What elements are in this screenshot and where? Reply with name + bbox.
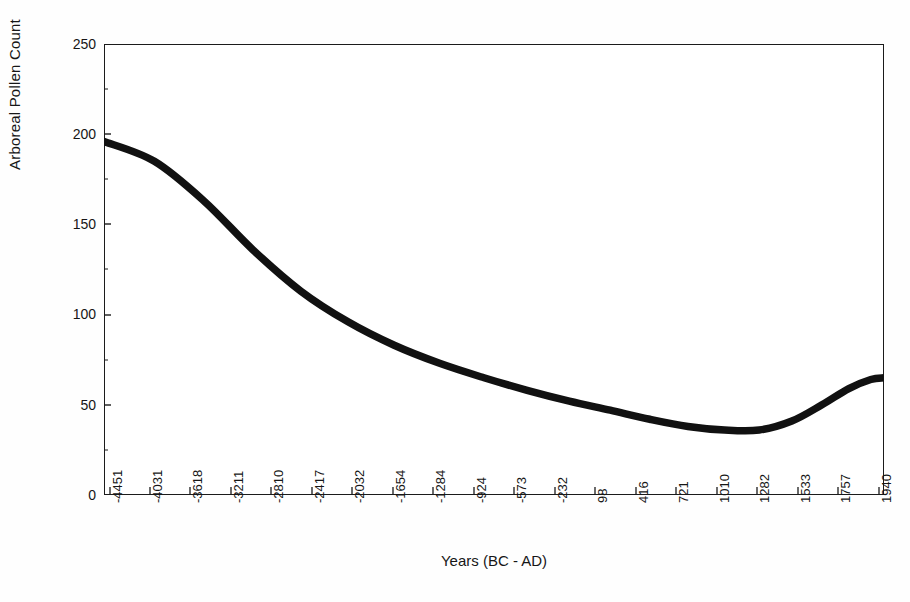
x-tick-label: 1757 [838,474,853,503]
y-tick-label: 200 [54,126,96,142]
x-tick-label: -1654 [393,470,408,503]
x-tick-label: -3618 [190,470,205,503]
plot-canvas [104,44,884,495]
y-tick-label: 150 [54,216,96,232]
x-tick-label: -3211 [231,471,246,503]
x-tick-label: 1533 [798,474,813,503]
caption-remnant [180,590,740,598]
x-tick-label: 98 [595,489,610,503]
x-tick-label: 416 [636,481,651,503]
x-tick-label: -4451 [110,470,125,503]
y-tick-label: 250 [54,36,96,52]
pollen-count-figure: Arboreal Pollen Count 0 50 100 150 200 2… [0,0,910,602]
x-tick-label: 1940 [879,474,894,503]
x-tick-label: -2417 [312,470,327,503]
y-tick-label: 0 [54,487,96,503]
x-tick-label: -1284 [433,470,448,503]
x-tick-label: -232 [555,477,570,503]
y-axis-title: Arboreal Pollen Count [6,0,36,170]
y-tick-label: 100 [54,306,96,322]
y-axis-tick-labels: 0 50 100 150 200 250 [46,0,96,602]
x-tick-label: 1010 [717,474,732,503]
y-tick-label: 50 [54,397,96,413]
x-tick-label: -4031 [150,470,165,503]
x-tick-label: -573 [514,477,529,503]
x-tick-label: -924 [474,477,489,503]
pollen-count-curve [104,141,884,430]
x-axis-title: Years (BC - AD) [104,552,884,569]
x-tick-label: 721 [676,481,691,503]
x-tick-label: 1282 [757,474,772,503]
x-tick-label: -2032 [352,470,367,503]
x-tick-label: -2810 [271,470,286,503]
